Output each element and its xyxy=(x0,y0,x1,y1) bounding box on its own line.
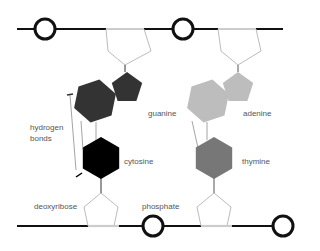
phosphate-top-right xyxy=(173,19,193,39)
phosphate-bottom-middle xyxy=(143,216,163,236)
label-cytosine: cytosine xyxy=(124,157,153,167)
cytosine-tick xyxy=(76,173,82,177)
phosphate-top-left xyxy=(35,19,55,39)
phosphate-bottom-right xyxy=(273,216,293,236)
top-deoxyribose-left xyxy=(106,29,151,65)
bottom-deoxyribose-right xyxy=(197,193,232,226)
label-bonds: bonds xyxy=(30,134,52,144)
label-adenine: adenine xyxy=(243,109,271,119)
label-phosphate: phosphate xyxy=(142,202,179,212)
thymine-base xyxy=(196,137,232,179)
label-guanine: guanine xyxy=(148,109,176,119)
bottom-deoxyribose-left xyxy=(84,193,119,226)
label-thymine: thymine xyxy=(242,157,270,167)
label-deoxyribose: deoxyribose xyxy=(34,202,77,212)
label-hydrogen: hydrogen xyxy=(30,123,63,133)
guanine-base xyxy=(74,72,142,123)
cytosine-base xyxy=(83,137,119,179)
guanine-tick xyxy=(67,94,73,95)
top-deoxyribose-right xyxy=(218,29,261,65)
